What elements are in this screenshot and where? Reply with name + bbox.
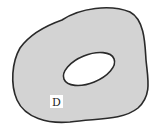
region-label: D — [52, 96, 61, 109]
region-diagram: D — [0, 0, 162, 129]
